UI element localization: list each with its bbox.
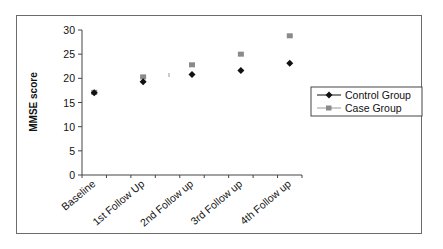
y-tick-label: 0 <box>69 169 75 181</box>
x-tick-label: 4th Follow up <box>238 177 294 226</box>
data-points <box>91 33 294 96</box>
y-tick-label: 5 <box>69 145 75 157</box>
x-tick-label: 2nd Follow up <box>137 177 195 228</box>
case-group-point <box>287 33 293 38</box>
y-axis-title: MMSE score <box>28 72 39 132</box>
x-tick-label: Baseline <box>59 177 98 212</box>
y-tick-label: 20 <box>63 72 75 84</box>
y-tick-label: 30 <box>63 24 75 36</box>
square-marker-icon <box>326 106 332 111</box>
y-axis-ticks: 051015202530 <box>63 24 82 181</box>
control-group-point <box>189 71 196 78</box>
legend-label-control-group: Control Group <box>345 89 411 101</box>
y-tick-label: 25 <box>63 48 75 60</box>
y-tick-label: 10 <box>63 121 75 133</box>
legend: Control Group Case Group <box>311 87 422 116</box>
x-tick-label: 3rd Follow up <box>188 177 244 227</box>
control-group-point <box>237 67 244 74</box>
control-group-point <box>286 60 293 67</box>
x-axis-labels: Baseline1st Follow Up2nd Follow up3rd Fo… <box>59 177 293 228</box>
case-group-point <box>238 52 244 57</box>
legend-label-case-group: Case Group <box>345 102 402 114</box>
case-group-point <box>189 62 195 67</box>
scatter-chart: MMSE score 051015202530 Baseline1st Foll… <box>0 0 443 249</box>
y-tick-label: 15 <box>63 97 75 109</box>
